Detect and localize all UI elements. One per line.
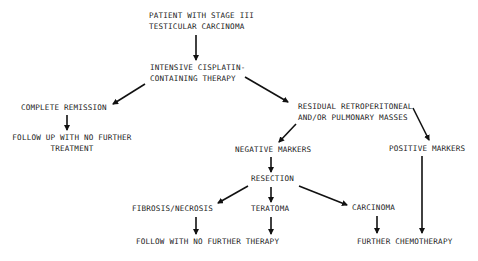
node-follow-up: FOLLOW UP WITH NO FURTHER TREATMENT — [11, 132, 133, 154]
node-resection-label: RESECTION — [251, 173, 294, 184]
node-resection: RESECTION — [251, 173, 294, 184]
arrow-residual-to-negative — [279, 124, 296, 142]
flowchart-arrows — [0, 0, 478, 261]
node-teratoma-label: TERATOMA — [251, 203, 289, 214]
arrow-residual-to-positive — [413, 108, 429, 140]
node-fibrosis-necrosis-label: FIBROSIS/NECROSIS — [132, 203, 213, 214]
node-follow-up-line-1: FOLLOW UP WITH NO FURTHER — [11, 132, 133, 143]
node-residual-masses-line-1: RESIDUAL RETROPERITONEAL — [298, 101, 413, 112]
node-complete-remission-label: COMPLETE REMISSION — [21, 102, 107, 113]
node-residual-masses: RESIDUAL RETROPERITONEAL AND/OR PULMONAR… — [298, 101, 413, 123]
arrow-therapy-to-residual — [245, 77, 288, 102]
node-patient-line-2: TESTICULAR CARCINOMA — [149, 21, 254, 32]
node-follow-up-line-2: TREATMENT — [11, 143, 133, 154]
arrow-resection-to-fibrosis — [218, 186, 248, 203]
node-residual-masses-line-2: AND/OR PULMONARY MASSES — [298, 112, 413, 123]
node-negative-markers: NEGATIVE MARKERS — [235, 144, 311, 155]
node-follow-no-further: FOLLOW WITH NO FURTHER THERAPY — [136, 236, 279, 247]
node-patient: PATIENT WITH STAGE III TESTICULAR CARCIN… — [149, 10, 254, 32]
node-further-chemo: FURTHER CHEMOTHERAPY — [357, 236, 452, 247]
node-complete-remission: COMPLETE REMISSION — [21, 102, 107, 113]
node-teratoma: TERATOMA — [251, 203, 289, 214]
arrow-resection-to-carcinoma — [299, 186, 347, 205]
node-patient-line-1: PATIENT WITH STAGE III — [149, 10, 254, 21]
node-carcinoma: CARCINOMA — [352, 202, 395, 213]
node-carcinoma-label: CARCINOMA — [352, 202, 395, 213]
node-therapy-line-2: CONTAINING THERAPY — [150, 73, 245, 84]
node-positive-markers: POSITIVE MARKERS — [389, 143, 465, 154]
node-negative-markers-label: NEGATIVE MARKERS — [235, 144, 311, 155]
node-therapy-line-1: INTENSIVE CISPLATIN- — [150, 62, 245, 73]
node-follow-no-further-label: FOLLOW WITH NO FURTHER THERAPY — [136, 236, 279, 247]
node-positive-markers-label: POSITIVE MARKERS — [389, 143, 465, 154]
node-therapy: INTENSIVE CISPLATIN- CONTAINING THERAPY — [150, 62, 245, 84]
node-fibrosis-necrosis: FIBROSIS/NECROSIS — [132, 203, 213, 214]
node-further-chemo-label: FURTHER CHEMOTHERAPY — [357, 236, 452, 247]
arrow-therapy-to-remission — [113, 84, 145, 104]
